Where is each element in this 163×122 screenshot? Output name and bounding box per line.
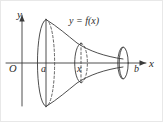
- origin-label: O: [9, 64, 17, 75]
- slice-position-label-x: x: [77, 64, 81, 74]
- lower-profile-curve: [46, 67, 123, 107]
- function-curve-label: y = f(x): [69, 16, 99, 26]
- y-axis-label: y: [17, 9, 22, 20]
- x-axis-arrowhead: [140, 60, 147, 65]
- x-axis-label: x: [149, 58, 154, 69]
- left-bound-label-a: a: [41, 64, 46, 74]
- solid-of-revolution-figure: y x O a x b y = f(x): [0, 0, 163, 122]
- right-bound-label-b: b: [134, 64, 139, 74]
